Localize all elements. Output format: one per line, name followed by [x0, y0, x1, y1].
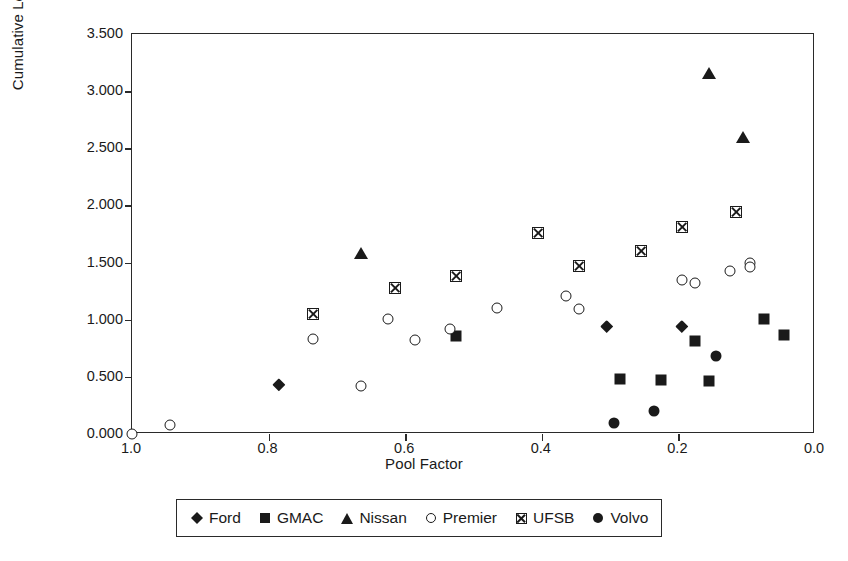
data-point-gmac — [758, 313, 769, 324]
marker-square-icon — [690, 336, 701, 347]
marker-diamond-icon — [600, 320, 613, 333]
data-point-ufsb — [676, 221, 688, 233]
data-point-ford — [272, 378, 285, 391]
marker-circle-open-icon — [560, 290, 571, 301]
marker-circle-filled-icon — [608, 417, 619, 428]
marker-circle-open-icon — [127, 429, 138, 440]
marker-triangle-icon — [354, 247, 368, 259]
x-tick-label: 0.2 — [652, 440, 702, 456]
marker-circle-open-icon — [492, 303, 503, 314]
marker-square-crossed-icon — [635, 245, 647, 257]
data-point-premier — [164, 419, 175, 430]
y-tick-mark — [125, 205, 132, 207]
legend-item-ford[interactable]: Ford — [190, 509, 241, 527]
chart-legend: FordGMACNissanPremierUFSBVolvo — [176, 499, 662, 537]
data-point-gmac — [704, 376, 715, 387]
data-point-nissan — [702, 67, 716, 79]
data-point-volvo — [710, 351, 721, 362]
legend-item-ufsb[interactable]: UFSB — [514, 509, 574, 527]
legend-item-label: Premier — [443, 509, 497, 527]
legend-item-label: GMAC — [277, 509, 324, 527]
data-point-ufsb — [730, 206, 742, 218]
data-point-premier — [745, 262, 756, 273]
data-point-ufsb — [573, 260, 585, 272]
marker-diamond-icon — [272, 378, 285, 391]
marker-square-icon — [758, 313, 769, 324]
y-tick-label: 1.500 — [59, 254, 123, 270]
y-tick-mark — [125, 263, 132, 265]
marker-circle-filled-icon — [710, 351, 721, 362]
marker-circle-open-icon — [355, 381, 366, 392]
marker-square-crossed-icon — [532, 227, 544, 239]
legend-marker-square-crossed-icon — [514, 511, 528, 525]
x-tick-mark — [405, 434, 407, 441]
marker-circle-open-icon — [676, 274, 687, 285]
legend-item-premier[interactable]: Premier — [424, 509, 497, 527]
marker-circle-open-icon — [164, 419, 175, 430]
marker-glyph-icon — [516, 513, 527, 524]
data-point-premier — [127, 429, 138, 440]
x-tick-mark — [542, 434, 544, 441]
x-tick-label: 0.0 — [789, 440, 839, 456]
y-tick-label: 3.500 — [59, 25, 123, 41]
marker-square-crossed-icon — [450, 270, 462, 282]
data-point-gmac — [615, 374, 626, 385]
marker-diamond-icon — [675, 320, 688, 333]
x-tick-label: 0.4 — [516, 440, 566, 456]
data-point-gmac — [779, 329, 790, 340]
data-point-premier — [560, 290, 571, 301]
marker-glyph-icon — [341, 513, 353, 524]
data-point-ufsb — [532, 227, 544, 239]
legend-item-gmac[interactable]: GMAC — [258, 509, 324, 527]
chart-figure: Cumulative Loss (%) Pool Factor 0.0000.5… — [0, 0, 848, 561]
data-point-volvo — [608, 417, 619, 428]
marker-glyph-icon — [260, 513, 270, 523]
legend-item-label: Volvo — [610, 509, 648, 527]
data-point-premier — [574, 304, 585, 315]
marker-glyph-icon — [593, 513, 603, 523]
data-point-ford — [675, 320, 688, 333]
data-point-ufsb — [307, 308, 319, 320]
x-tick-label: 1.0 — [106, 440, 156, 456]
data-point-ufsb — [389, 282, 401, 294]
data-point-nissan — [736, 131, 750, 143]
legend-item-nissan[interactable]: Nissan — [340, 509, 406, 527]
data-point-premier — [307, 334, 318, 345]
y-tick-mark — [125, 377, 132, 379]
marker-circle-open-icon — [410, 335, 421, 346]
y-tick-label: 2.000 — [59, 196, 123, 212]
data-point-premier — [724, 265, 735, 276]
marker-circle-open-icon — [724, 265, 735, 276]
marker-square-icon — [704, 376, 715, 387]
marker-circle-open-icon — [574, 304, 585, 315]
data-point-premier — [690, 278, 701, 289]
marker-circle-open-icon — [307, 334, 318, 345]
marker-square-crossed-icon — [730, 206, 742, 218]
y-tick-mark — [125, 148, 132, 150]
legend-marker-circle-filled-icon — [591, 511, 605, 525]
data-point-ufsb — [450, 270, 462, 282]
legend-marker-square-icon — [258, 511, 272, 525]
data-point-premier — [492, 303, 503, 314]
y-tick-label: 1.000 — [59, 311, 123, 327]
plot-area — [131, 33, 814, 433]
marker-triangle-icon — [702, 67, 716, 79]
data-point-premier — [355, 381, 366, 392]
y-tick-label: 0.000 — [59, 425, 123, 441]
x-axis-title: Pool Factor — [0, 455, 848, 472]
x-tick-label: 0.6 — [379, 440, 429, 456]
data-point-premier — [676, 274, 687, 285]
marker-circle-open-icon — [383, 313, 394, 324]
legend-marker-diamond-icon — [190, 511, 204, 525]
marker-square-icon — [779, 329, 790, 340]
legend-marker-circle-open-icon — [424, 511, 438, 525]
legend-item-label: UFSB — [533, 509, 574, 527]
x-tick-label: 0.8 — [243, 440, 293, 456]
data-point-ufsb — [635, 245, 647, 257]
y-tick-label: 0.500 — [59, 368, 123, 384]
marker-glyph-icon — [426, 513, 436, 523]
marker-circle-open-icon — [690, 278, 701, 289]
legend-item-volvo[interactable]: Volvo — [591, 509, 648, 527]
y-axis-title: Cumulative Loss (%) — [9, 0, 26, 135]
marker-square-icon — [656, 375, 667, 386]
